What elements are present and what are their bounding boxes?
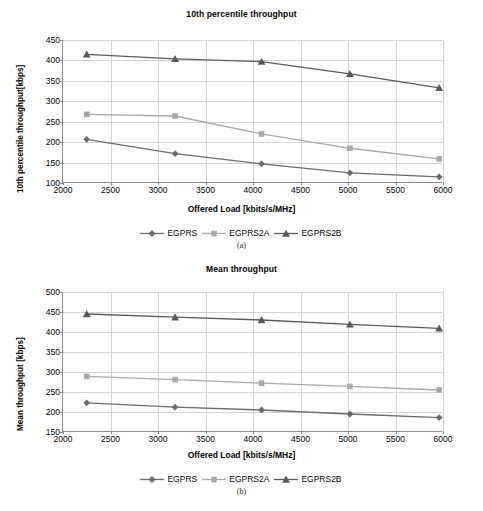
data-point-marker xyxy=(436,173,443,180)
y-tick-label: 450 xyxy=(46,35,60,45)
figure-throughput-comparison: 10th percentile throughput 10th percenti… xyxy=(0,0,483,511)
x-tick-label: 2000 xyxy=(54,434,73,444)
x-tick-label: 3000 xyxy=(149,434,168,444)
legend-item-egprs[interactable]: EGPRS xyxy=(139,228,199,239)
legend-symbol-triangle-icon xyxy=(273,228,299,239)
chart-panel-a: 10th percentile throughput 10th percenti… xyxy=(0,0,483,256)
chart-title-a: 10th percentile throughput xyxy=(0,9,483,19)
legend-label: EGPRS xyxy=(167,474,197,484)
x-tick-label: 5000 xyxy=(339,434,358,444)
data-point-marker xyxy=(436,156,442,162)
y-tick-label: 350 xyxy=(46,347,60,357)
data-point-marker xyxy=(83,136,90,143)
y-axis-label-a: 10th percentile throughput[kbps] xyxy=(16,65,25,193)
x-tick-label: 4500 xyxy=(291,434,310,444)
legend-label: EGPRS xyxy=(167,228,197,238)
x-tick-label: 4000 xyxy=(244,185,263,195)
x-tick-label: 3500 xyxy=(196,434,215,444)
data-point-marker xyxy=(436,414,443,421)
data-point-marker xyxy=(83,399,90,406)
x-tick-label: 3000 xyxy=(149,185,168,195)
y-tick-label: 300 xyxy=(46,96,60,106)
legend-label: EGPRS2B xyxy=(301,228,341,238)
data-point-marker xyxy=(172,113,178,119)
y-tick-label: 350 xyxy=(46,76,60,86)
y-tick-label: 250 xyxy=(46,117,60,127)
data-point-marker xyxy=(258,160,265,167)
x-tick-label: 2500 xyxy=(101,434,120,444)
data-point-marker xyxy=(259,131,265,137)
x-tick-label: 5000 xyxy=(339,185,358,195)
data-point-marker xyxy=(347,411,354,418)
legend-symbol-diamond-icon xyxy=(139,474,165,485)
legend-label: EGPRS2A xyxy=(229,474,269,484)
legend-item-egprs[interactable]: EGPRS xyxy=(139,474,199,485)
series-egprs2b xyxy=(83,50,443,91)
y-tick-label: 200 xyxy=(46,407,60,417)
legend-b: EGPRSEGPRS2AEGPRS2B xyxy=(0,472,483,486)
legend-symbol-square-icon xyxy=(201,228,227,239)
y-axis-label-b: Mean throughput [kbps] xyxy=(16,337,25,431)
y-tick-label: 300 xyxy=(46,367,60,377)
y-tick-label: 500 xyxy=(46,287,60,297)
data-point-marker xyxy=(172,150,179,157)
x-tick-label: 2500 xyxy=(101,185,120,195)
y-tick-label: 400 xyxy=(46,55,60,65)
legend-a: EGPRSEGPRS2AEGPRS2B xyxy=(0,226,483,240)
legend-item-egprs2a[interactable]: EGPRS2A xyxy=(201,228,271,239)
x-tick-label: 2000 xyxy=(54,185,73,195)
data-point-marker xyxy=(347,384,353,390)
data-point-marker xyxy=(259,380,265,386)
y-tick-label: 150 xyxy=(46,158,60,168)
x-tick-label: 4500 xyxy=(291,185,310,195)
x-axis-label-b: Offered Load [kbits/s/MHz] xyxy=(0,450,483,460)
y-tick-label: 400 xyxy=(46,327,60,337)
series-layer xyxy=(63,40,443,183)
panel-caption-b: (b) xyxy=(0,487,483,496)
data-point-marker xyxy=(347,145,353,151)
x-tick-label: 5500 xyxy=(386,434,405,444)
data-point-marker xyxy=(172,404,179,411)
x-tick-label: 5500 xyxy=(386,185,405,195)
series-egprs2a xyxy=(84,112,442,162)
series-layer xyxy=(63,292,443,432)
legend-symbol-triangle-icon xyxy=(273,474,299,485)
legend-symbol-diamond-icon xyxy=(139,228,165,239)
y-tick-label: 200 xyxy=(46,137,60,147)
chart-title-b: Mean throughput xyxy=(0,264,483,274)
series-egprs xyxy=(83,136,442,180)
series-egprs xyxy=(83,399,442,421)
data-point-marker xyxy=(258,407,265,414)
data-point-marker xyxy=(172,377,178,383)
x-tick-label: 3500 xyxy=(196,185,215,195)
data-point-marker xyxy=(84,374,90,380)
legend-label: EGPRS2B xyxy=(301,474,341,484)
panel-caption-a: (a) xyxy=(0,241,483,250)
series-egprs2b xyxy=(83,310,443,331)
x-tick-label: 6000 xyxy=(434,185,453,195)
x-tick-label: 6000 xyxy=(434,434,453,444)
legend-item-egprs2b[interactable]: EGPRS2B xyxy=(273,474,343,485)
chart-panel-b: Mean throughput Mean throughput [kbps] 1… xyxy=(0,256,483,511)
legend-item-egprs2a[interactable]: EGPRS2A xyxy=(201,474,271,485)
legend-label: EGPRS2A xyxy=(229,228,269,238)
plot-area-b: 1502002503003504004505002000250030003500… xyxy=(62,292,442,432)
y-tick-label: 450 xyxy=(46,307,60,317)
data-point-marker xyxy=(347,169,354,176)
gridline-vertical xyxy=(443,40,444,182)
legend-item-egprs2b[interactable]: EGPRS2B xyxy=(273,228,343,239)
series-egprs2a xyxy=(84,374,442,393)
data-point-marker xyxy=(436,387,442,393)
data-point-marker xyxy=(84,112,90,118)
x-axis-label-a: Offered Load [kbits/s/MHz] xyxy=(0,204,483,214)
legend-symbol-square-icon xyxy=(201,474,227,485)
gridline-vertical xyxy=(443,292,444,431)
x-tick-label: 4000 xyxy=(244,434,263,444)
y-tick-label: 250 xyxy=(46,387,60,397)
plot-area-a: 1001502002503003504004502000250030003500… xyxy=(62,40,442,183)
